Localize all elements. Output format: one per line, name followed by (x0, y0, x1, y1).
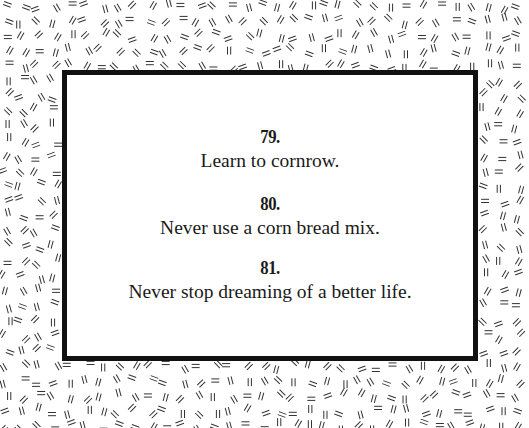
item-number: 81. (91, 258, 448, 278)
item-text: Never use a corn bread mix. (67, 216, 473, 240)
item-text: Learn to cornrow. (67, 149, 473, 173)
item-text: Never stop dreaming of a better life. (67, 280, 473, 304)
item-number: 79. (91, 127, 448, 147)
tips-card: 79. Learn to cornrow. 80. Never use a co… (62, 70, 478, 361)
item-number: 80. (91, 194, 448, 214)
list-item: 80. Never use a corn bread mix. (67, 194, 473, 240)
list-item: 81. Never stop dreaming of a better life… (67, 258, 473, 304)
list-item: 79. Learn to cornrow. (67, 127, 473, 173)
